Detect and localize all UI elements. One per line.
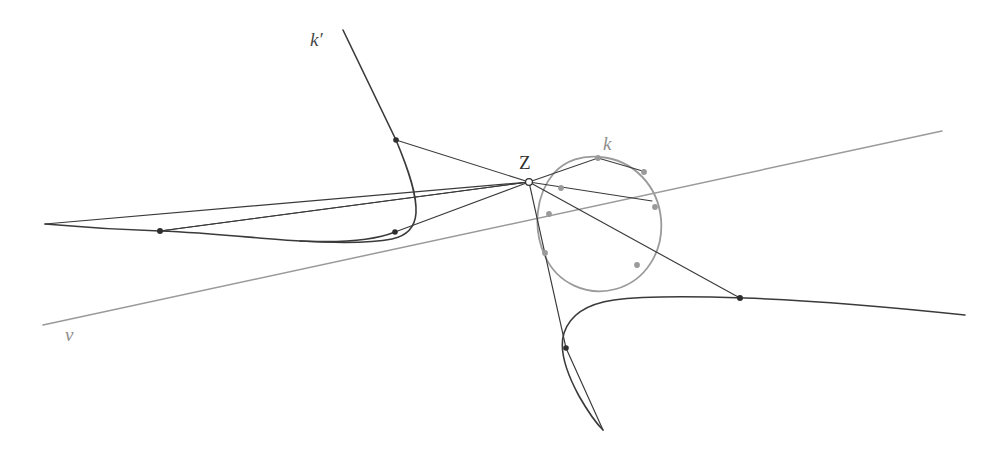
- figure-canvas: k′ k Z v: [0, 0, 985, 462]
- label-k: k: [603, 133, 612, 154]
- points-group: [157, 137, 743, 351]
- point-conic-right: [652, 204, 658, 210]
- point-conic-left: [546, 211, 552, 217]
- geometry-diagram: k′ k Z v: [0, 0, 985, 462]
- point-conic-lower-left: [542, 250, 548, 256]
- ray-Z-to-conic-top: [529, 158, 646, 182]
- point-conic-lower-right: [634, 262, 640, 268]
- conic-k-ellipse: [537, 157, 661, 292]
- axis-line-v-group: [43, 131, 942, 325]
- label-k-prime: k′: [310, 29, 323, 50]
- curve-right-branch: [562, 297, 965, 430]
- ray-Z-to-left-point-lower: [160, 182, 529, 231]
- point-conic-left-upper: [558, 185, 564, 191]
- curve-left-branch: [45, 224, 395, 242]
- label-v: v: [65, 324, 74, 345]
- rays-through-Z: [45, 140, 740, 430]
- ray-Z-to-kprime-upper: [396, 140, 529, 182]
- point-conic-upper-right: [641, 169, 647, 175]
- label-Z: Z: [519, 152, 531, 173]
- point-right-curve: [737, 295, 743, 301]
- ray-Z-secant-left: [45, 182, 529, 224]
- point-kprime-lower: [392, 229, 398, 235]
- curve-right-branch-group: [562, 297, 965, 430]
- point-kprime-upper: [393, 137, 399, 143]
- point-conic-top: [595, 155, 601, 161]
- axis-line-v: [43, 131, 942, 325]
- point-left-curve: [157, 228, 163, 234]
- point-lower-branch: [563, 345, 569, 351]
- point-centre-Z: [526, 179, 533, 186]
- curve-left-branch-group: [45, 224, 395, 242]
- conic-k-group: [537, 157, 661, 292]
